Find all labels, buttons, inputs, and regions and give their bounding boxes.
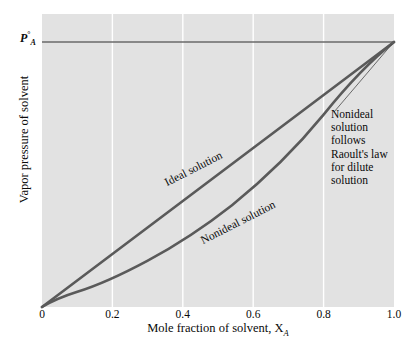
annotation-line-6: solution (331, 174, 411, 187)
x-tick-0.6: 0.6 (233, 308, 273, 320)
x-tick-0.2: 0.2 (92, 308, 132, 320)
annotation-line-4: Raoult's law (331, 148, 411, 161)
annotation-line-1: Nonideal (331, 108, 411, 121)
y-axis-label: Vapor pressure of solvent (17, 20, 32, 260)
vapor-pressure-chart: P°A Vapor pressure of solvent Mole fract… (0, 0, 416, 342)
x-tick-1.0: 1.0 (374, 308, 414, 320)
raoult-law-annotation: Nonideal solution follows Raoult's law f… (331, 108, 411, 187)
x-axis-label: Mole fraction of solvent, XA (42, 321, 394, 338)
annotation-line-5: for dilute (331, 161, 411, 174)
x-tick-0: 0 (22, 308, 62, 320)
x-tick-0.8: 0.8 (304, 308, 344, 320)
x-tick-0.4: 0.4 (163, 308, 203, 320)
annotation-line-3: follows (331, 134, 411, 147)
annotation-line-2: solution (331, 121, 411, 134)
